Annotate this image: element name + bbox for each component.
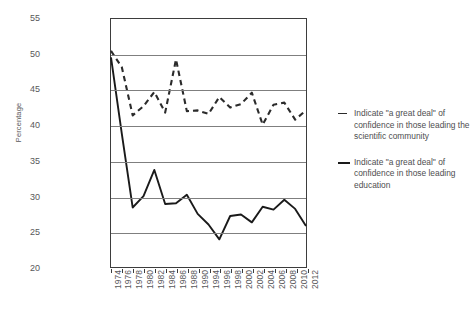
x-axis-tick-label: 1980 (146, 270, 155, 289)
y-axis-tick-label: 40 (16, 121, 40, 130)
series-layer (111, 19, 306, 267)
gridline (111, 162, 306, 163)
x-axis-tick-label: 1996 (223, 270, 232, 289)
chart-legend: Indicate "a great deal" of confidence in… (338, 108, 470, 205)
y-axis-tick-labels: 2025303540455055 (14, 0, 40, 320)
x-axis-tick-label: 1982 (157, 270, 166, 289)
y-axis-tick-label: 45 (16, 85, 40, 94)
legend-item-education: Indicate "a great deal" of confidence in… (338, 157, 470, 192)
legend-item-scientific-community: Indicate "a great deal" of confidence in… (338, 108, 470, 143)
legend-item-label: Indicate "a great deal" of confidence in… (354, 108, 470, 143)
y-axis-tick-label: 30 (16, 192, 40, 201)
y-axis-tick-label: 55 (16, 14, 40, 23)
gridline (111, 90, 306, 91)
x-axis-tick-label: 2008 (289, 270, 298, 289)
dashed-line-marker-icon (338, 108, 350, 120)
x-axis-tick-labels: 1974197619781980198219841986198819901994… (110, 270, 310, 320)
solid-line-marker-icon (338, 157, 350, 169)
x-axis-tick-label: 1990 (201, 270, 210, 289)
legend-item-label: Indicate "a great deal" of confidence in… (354, 157, 470, 192)
y-axis-tick-label: 20 (16, 264, 40, 273)
x-axis-tick-label: 2000 (245, 270, 254, 289)
series-line-scientific-community (111, 51, 306, 125)
x-axis-tick-label: 2012 (311, 270, 320, 289)
x-axis-tick-label: 1984 (168, 270, 177, 289)
x-axis-tick-label: 1988 (190, 270, 199, 289)
x-axis-tick-label: 2010 (300, 270, 309, 289)
x-axis-tick-label: 1986 (179, 270, 188, 289)
x-axis-tick-label: 1976 (124, 270, 133, 289)
gridline (111, 55, 306, 56)
x-axis-tick-label: 1978 (135, 270, 144, 289)
y-axis-tick-label: 35 (16, 156, 40, 165)
x-axis-tick-label: 2004 (267, 270, 276, 289)
x-axis-tick-label: 1998 (234, 270, 243, 289)
gridline (111, 126, 306, 127)
gridline (111, 233, 306, 234)
chart-figure: Percentage 2025303540455055 197419761978… (0, 0, 473, 320)
plot-area (110, 18, 307, 268)
y-axis-tick-label: 25 (16, 228, 40, 237)
x-axis-tick-label: 1994 (212, 270, 221, 289)
y-axis-tick-label: 50 (16, 49, 40, 58)
series-line-education (111, 57, 306, 239)
gridline (111, 198, 306, 199)
x-axis-tick-label: 2002 (256, 270, 265, 289)
x-axis-tick-label: 2006 (278, 270, 287, 289)
x-axis-tick-label: 1974 (114, 270, 123, 289)
